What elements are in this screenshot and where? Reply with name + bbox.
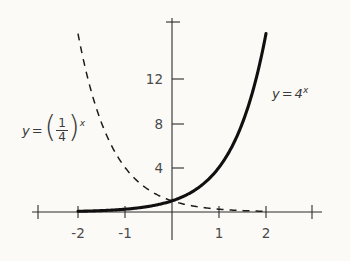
annotation-left-equals: = (30, 123, 45, 138)
annotation-left-fraction: 14 (56, 117, 68, 145)
annotation-right-base: 4 (295, 86, 303, 101)
annotation-right-equals: = (280, 86, 295, 101)
x-tick-label-1: 1 (215, 225, 224, 241)
annotation-left-numerator: 1 (56, 117, 68, 130)
y-tick-label-4: 4 (154, 160, 163, 176)
annotation-left-paren-close: ) (68, 109, 80, 144)
y-tick-label-8: 8 (154, 116, 163, 132)
y-axis-ticks (166, 22, 184, 168)
exponential-functions-figure: 12 8 4 -2 -1 1 2 y=4x y=(14)x (0, 0, 350, 261)
annotation-y-equals-one-quarter-to-the-x: y=(14)x (22, 118, 85, 146)
x-tick-label-2: 2 (262, 225, 271, 241)
annotation-right-variable: y (272, 86, 280, 101)
annotation-left-denominator: 4 (56, 130, 68, 144)
annotation-right-exponent: x (303, 85, 308, 95)
x-tick-label-neg2: -2 (71, 225, 84, 241)
annotation-left-paren-open: ( (45, 109, 57, 144)
annotation-left-exponent: x (80, 118, 85, 128)
y-tick-label-12: 12 (146, 71, 163, 87)
annotation-left-variable: y (22, 123, 30, 138)
x-tick-label-neg1: -1 (118, 225, 131, 241)
annotation-y-equals-4-to-the-x: y=4x (272, 85, 308, 101)
